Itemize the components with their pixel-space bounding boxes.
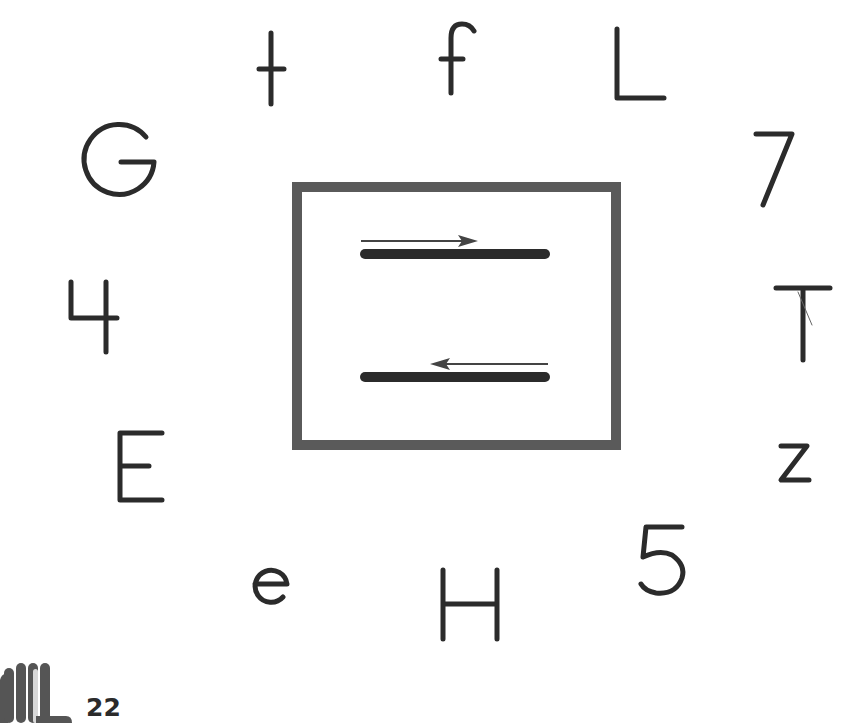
bottom-line-group [365,358,548,377]
glyph-G [84,124,154,194]
glyph-7 [756,134,792,205]
page-number: 22 [86,695,121,720]
glyph-H [443,570,497,639]
glyph-f [441,24,474,93]
glyph-e [255,570,287,602]
glyph-E [120,433,162,500]
glyph-T [776,288,830,360]
glyph-z [781,446,809,480]
worksheet-canvas [0,0,856,723]
top-line-group [361,235,545,254]
glyph-L [617,29,664,98]
glyph-t [259,33,284,104]
glyph-4 [71,282,117,352]
glyph-5 [641,527,683,593]
hand-icon [0,663,72,723]
